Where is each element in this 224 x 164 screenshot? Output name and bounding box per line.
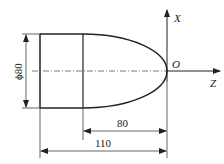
z-axis-label: Z	[210, 77, 217, 89]
technical-drawing: X Z O ϕ80 80 110	[0, 0, 224, 164]
diameter-label: ϕ80	[12, 63, 24, 80]
x-axis-label: X	[173, 12, 182, 24]
origin-label: O	[172, 58, 180, 70]
length-110-label: 110	[95, 137, 112, 149]
length-110-dimension	[40, 108, 166, 158]
length-80-label: 80	[117, 117, 129, 129]
